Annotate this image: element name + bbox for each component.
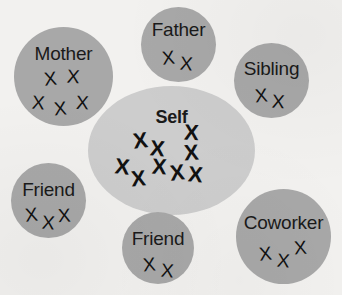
- node-sibling: SiblingXX: [234, 43, 309, 118]
- mark-x: X: [169, 161, 186, 184]
- mark-x: X: [130, 167, 147, 190]
- mark-group-father: XX: [141, 7, 216, 82]
- node-coworker: CoworkerXXX: [236, 189, 331, 284]
- mark-x: X: [142, 254, 156, 274]
- social-network-diagram: SelfXXXXXXXXXMotherXXXXXFatherXXSiblingX…: [0, 0, 342, 295]
- mark-x: X: [31, 92, 45, 112]
- mark-x: X: [187, 163, 204, 186]
- mark-x: X: [41, 212, 55, 232]
- mark-group-friend-bottom: XX: [122, 212, 194, 284]
- node-father: FatherXX: [141, 7, 216, 82]
- mark-x: X: [58, 206, 72, 226]
- mark-x: X: [43, 68, 58, 88]
- mark-x: X: [151, 156, 167, 179]
- node-friend-bottom: FriendXX: [122, 212, 194, 284]
- mark-group-friend-left: XXX: [11, 163, 86, 238]
- mark-x: X: [254, 85, 268, 105]
- mark-x: X: [114, 155, 131, 178]
- mark-x: X: [132, 129, 149, 153]
- mark-group-self: XXXXXXXXX: [88, 86, 255, 215]
- mark-group-mother: XXXXX: [14, 27, 113, 126]
- mark-x: X: [271, 92, 285, 112]
- mark-x: X: [53, 98, 67, 118]
- mark-x: X: [24, 204, 39, 224]
- mark-group-sibling: XX: [234, 43, 309, 118]
- node-self: SelfXXXXXXXXX: [88, 86, 255, 215]
- mark-group-coworker: XXX: [236, 189, 331, 284]
- mark-x: X: [76, 93, 90, 113]
- mark-x: X: [160, 260, 174, 280]
- node-friend-left: FriendXXX: [11, 163, 86, 238]
- mark-x: X: [258, 243, 273, 263]
- mark-x: X: [66, 67, 80, 87]
- mark-x: X: [276, 250, 290, 270]
- node-mother: MotherXXXXX: [14, 27, 113, 126]
- mark-x: X: [179, 53, 193, 73]
- mark-x: X: [161, 47, 176, 67]
- mark-x: X: [293, 238, 307, 258]
